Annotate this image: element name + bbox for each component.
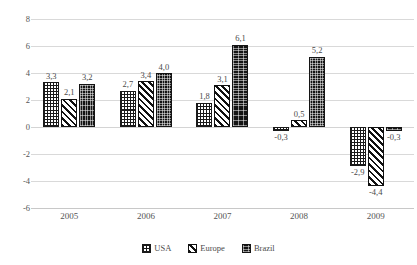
bar-value-label: 5,2 bbox=[302, 46, 332, 55]
legend: USAEuropeBrazil bbox=[0, 240, 417, 256]
bar-europe-2007 bbox=[214, 85, 230, 127]
legend-item-brazil[interactable]: Brazil bbox=[242, 244, 275, 253]
y-axis-tick-label: 0 bbox=[4, 123, 30, 132]
bar-group: 1,83,16,1 bbox=[184, 0, 261, 225]
bar-usa-2009 bbox=[350, 127, 366, 166]
bar-europe-2006 bbox=[138, 81, 154, 127]
bar-brazil-2006 bbox=[156, 73, 172, 127]
bar-europe-2008 bbox=[291, 120, 307, 127]
bar-value-label: 4,0 bbox=[149, 63, 179, 72]
bar-usa-2007 bbox=[196, 103, 212, 127]
x-axis-tick-label: 2009 bbox=[337, 211, 414, 222]
bar-value-label: -4,4 bbox=[361, 188, 391, 197]
x-axis-tick-label: 2007 bbox=[184, 211, 261, 222]
x-axis-tick-label: 2006 bbox=[108, 211, 185, 222]
x-axis: 20052006200720082009 bbox=[31, 211, 414, 227]
bar-usa-2008 bbox=[273, 127, 289, 131]
bar-value-label: 3,3 bbox=[36, 72, 66, 81]
legend-item-europe[interactable]: Europe bbox=[188, 244, 225, 253]
legend-swatch-usa-icon bbox=[142, 244, 151, 253]
y-axis: 86420-2-4-6 bbox=[0, 0, 30, 265]
bar-value-label: 6,1 bbox=[225, 34, 255, 43]
y-axis-tick-label: -6 bbox=[4, 204, 30, 213]
legend-item-label: Brazil bbox=[254, 244, 275, 253]
bar-europe-2005 bbox=[61, 99, 77, 127]
bar-brazil-2005 bbox=[79, 84, 95, 127]
bar-value-label: 3,2 bbox=[72, 73, 102, 82]
bar-group: 3,32,13,2 bbox=[31, 0, 108, 225]
legend-swatch-brazil-icon bbox=[242, 244, 251, 253]
y-axis-tick-label: -2 bbox=[4, 150, 30, 159]
bar-value-label: -0,3 bbox=[266, 133, 296, 142]
legend-item-usa[interactable]: USA bbox=[142, 244, 171, 253]
x-axis-tick-label: 2008 bbox=[261, 211, 338, 222]
bar-value-label: -0,3 bbox=[379, 133, 409, 142]
y-axis-tick-label: -4 bbox=[4, 177, 30, 186]
y-axis-tick-label: 4 bbox=[4, 69, 30, 78]
bar-brazil-2009 bbox=[386, 127, 402, 131]
y-axis-tick-label: 6 bbox=[4, 42, 30, 51]
bar-group: -2,9-4,4-0,3 bbox=[337, 0, 414, 225]
legend-item-label: Europe bbox=[200, 244, 225, 253]
y-axis-tick-label: 8 bbox=[4, 15, 30, 24]
bar-group: 2,73,44,0 bbox=[108, 0, 185, 225]
legend-item-label: USA bbox=[154, 244, 171, 253]
bar-chart: 86420-2-4-6 3,32,13,22,73,44,01,83,16,1-… bbox=[0, 0, 417, 265]
bar-usa-2006 bbox=[120, 91, 136, 127]
y-axis-tick-label: 2 bbox=[4, 96, 30, 105]
x-axis-tick-label: 2005 bbox=[31, 211, 108, 222]
legend-swatch-europe-icon bbox=[188, 244, 197, 253]
bar-brazil-2008 bbox=[309, 57, 325, 127]
bar-brazil-2007 bbox=[232, 45, 248, 127]
bar-group: -0,30,55,2 bbox=[261, 0, 338, 225]
